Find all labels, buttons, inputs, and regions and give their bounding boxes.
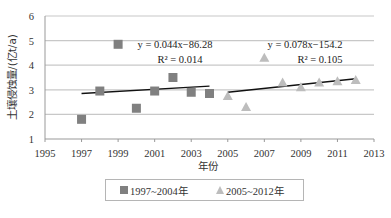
triangle-marker-icon [259,53,269,62]
data-points [77,40,361,124]
square-marker-icon [168,73,177,82]
square-marker-icon [150,87,159,96]
axes [45,16,374,142]
y-tick-label: 6 [29,11,34,22]
x-tick-label: 2013 [364,148,385,159]
triangle-marker-icon [241,102,251,111]
r-squared-label: R² = 0.014 [158,54,204,65]
x-tick-label: 2005 [217,148,238,159]
gridlines [45,16,374,114]
r-squared-label: R² = 0.105 [298,54,343,65]
y-tick-labels: 123456 [29,11,35,145]
square-marker-icon [132,104,141,113]
square-marker-icon [95,87,104,96]
y-axis-title: 土壤侵蚀量/(亿t/a) [6,34,18,120]
x-axis-title: 年份 [198,160,219,172]
legend-label-1997-2004: 1997~2004年 [130,183,188,198]
x-tick-label: 2011 [327,148,348,159]
square-marker-icon [205,89,214,98]
y-tick-label: 5 [29,36,34,47]
y-tick-label: 2 [29,109,34,120]
x-tick-label: 2003 [181,148,202,159]
y-tick-label: 3 [29,85,34,96]
x-tick-label: 1999 [108,148,129,159]
triangle-marker-icon [278,77,288,86]
x-tick-labels: 1995199719992001200320052007200920112013 [35,148,385,159]
scatter-chart: 123456 199519971999200120032005200720092… [0,0,391,178]
square-marker-icon [120,186,128,194]
y-tick-label: 4 [29,60,35,71]
square-marker-icon [187,88,196,97]
x-tick-label: 2007 [254,148,275,159]
legend-item-2005-2012: 2005~2012年 [216,183,284,198]
square-marker-icon [77,115,86,124]
x-tick-label: 1997 [71,148,92,159]
trendline-equation: y = 0.078x−154.2 [268,39,343,50]
chart-legend: 1997~2004年 2005~2012年 [105,179,304,201]
x-tick-label: 1995 [35,148,56,159]
x-tick-label: 2009 [290,148,311,159]
legend-label-2005-2012: 2005~2012年 [226,183,284,198]
square-marker-icon [114,40,123,49]
trendline-equations: y = 0.044x−86.28R² = 0.014y = 0.078x−154… [138,39,343,65]
y-tick-label: 1 [29,134,34,145]
x-tick-label: 2001 [144,148,165,159]
trendline-equation: y = 0.044x−86.28 [138,39,213,50]
triangle-marker-icon [216,186,224,194]
legend-item-1997-2004: 1997~2004年 [120,183,188,198]
